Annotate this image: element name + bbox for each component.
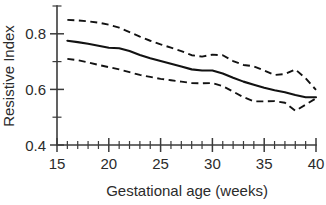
x-tick-label-15: 15 — [49, 155, 66, 172]
y-axis-title: Resistive Index — [0, 25, 17, 127]
y-axis-tick-labels: 0.40.60.8 — [25, 25, 46, 153]
x-tick-label-20: 20 — [100, 155, 117, 172]
y-tick-label-0.6: 0.6 — [25, 81, 46, 98]
x-tick-label-30: 30 — [204, 155, 221, 172]
x-tick-label-25: 25 — [152, 155, 169, 172]
series-line-0 — [67, 20, 316, 90]
series-line-2 — [67, 59, 316, 111]
y-tick-label-0.8: 0.8 — [25, 25, 46, 42]
chart-plot-area: 0.40.60.8 152025303540 Gestational age (… — [0, 0, 326, 205]
x-axis-title: Gestational age (weeks) — [106, 182, 268, 199]
x-tick-label-40: 40 — [308, 155, 325, 172]
chart-series-group — [67, 20, 316, 111]
x-tick-label-35: 35 — [256, 155, 273, 172]
y-tick-label-0.4: 0.4 — [25, 137, 46, 154]
x-axis-tick-labels: 152025303540 — [49, 155, 325, 172]
series-line-1 — [67, 41, 316, 97]
resistive-index-chart: 0.40.60.8 152025303540 Gestational age (… — [0, 0, 326, 205]
